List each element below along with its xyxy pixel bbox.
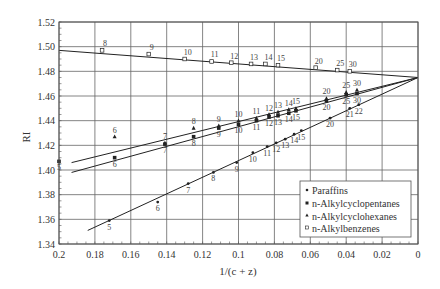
data-point: [147, 52, 151, 56]
point-label: 12: [272, 145, 280, 154]
data-point: [335, 68, 339, 72]
point-label: 14: [264, 53, 272, 62]
data-point: [210, 60, 214, 64]
point-label: 12: [230, 52, 238, 61]
plot-svg: 0.20.180.160.140.120.10.080.060.040.0201…: [0, 0, 440, 289]
data-point: [264, 62, 268, 66]
point-label: 15: [277, 54, 285, 63]
data-point: [355, 88, 359, 92]
point-label: 8: [103, 39, 107, 48]
legend-item-cyclohexanes: n-Alkylcyclohexanes: [305, 211, 397, 222]
y-tick-label: 1.44: [38, 115, 56, 126]
open-square-marker-icon: [306, 226, 309, 229]
x-tick-label: 0.1: [232, 249, 245, 260]
x-tick-label: 0: [416, 249, 421, 260]
x-tick-label: 0.12: [194, 249, 212, 260]
data-point: [314, 66, 318, 70]
filled-square-marker-icon: [306, 202, 309, 205]
point-label: 15: [292, 113, 300, 122]
data-point: [249, 62, 253, 66]
data-point: [329, 117, 332, 120]
data-point: [156, 201, 159, 204]
y-axis-label: RI: [20, 131, 32, 142]
point-label: 9: [217, 130, 221, 139]
point-label: 5: [107, 223, 111, 232]
legend-label: n-Alkylcyclopentanes: [312, 198, 400, 209]
data-point: [348, 70, 352, 74]
y-tick-label: 1.34: [38, 239, 56, 250]
fit-line: [72, 78, 418, 163]
y-tick-label: 1.50: [38, 41, 56, 52]
dot-marker-icon: [306, 189, 309, 192]
data-point: [276, 63, 280, 67]
point-label: 11: [211, 50, 219, 59]
point-label: 20: [322, 103, 330, 112]
x-tick-label: 0.04: [337, 249, 355, 260]
x-tick-label: 0.06: [302, 249, 320, 260]
point-label: 8: [192, 117, 196, 126]
x-tick-label: 0.14: [158, 249, 176, 260]
y-tick-label: 1.46: [38, 91, 56, 102]
legend-label: n-Alkylcyclohexanes: [312, 211, 397, 222]
point-label: 30: [349, 60, 357, 69]
point-label: 6: [113, 126, 117, 135]
data-point: [212, 171, 215, 174]
point-label: 30: [353, 96, 361, 105]
point-label: 7: [163, 132, 167, 141]
point-label: 20: [315, 57, 323, 66]
point-label: 25: [342, 81, 350, 90]
y-tick-label: 1.42: [38, 140, 56, 151]
point-label: 25: [342, 97, 350, 106]
legend-item-cyclopentanes: n-Alkylcyclopentanes: [306, 198, 400, 209]
point-label: 10: [184, 48, 192, 57]
data-point: [300, 129, 303, 132]
point-label: 10: [235, 126, 243, 135]
point-label: 6: [113, 160, 117, 169]
data-point: [348, 107, 351, 110]
point-label: 6: [156, 204, 160, 213]
y-tick-label: 1.52: [38, 17, 56, 28]
data-point: [100, 49, 104, 53]
y-tick-label: 1.36: [38, 214, 56, 225]
data-point: [230, 61, 234, 65]
point-label: 22: [355, 107, 363, 116]
point-label: 13: [274, 118, 282, 127]
point-label: 11: [253, 107, 261, 116]
point-label: 15: [297, 133, 305, 142]
point-label: 9: [217, 115, 221, 124]
data-point: [275, 141, 278, 144]
data-point: [266, 145, 269, 148]
data-point: [284, 138, 287, 141]
data-point: [192, 126, 196, 130]
legend-label: Paraffins: [312, 185, 348, 196]
data-point: [187, 182, 190, 185]
x-tick-label: 0.18: [86, 249, 104, 260]
point-label: 8: [211, 174, 215, 183]
point-label: 9: [235, 165, 239, 174]
x-axis-label: 1/(c + z): [219, 265, 257, 278]
point-label: 7: [186, 186, 190, 195]
point-label: 9: [150, 43, 154, 52]
point-label: 30: [353, 79, 361, 88]
data-point: [108, 219, 111, 222]
refractive-index-chart: 0.20.180.160.140.120.10.080.060.040.0201…: [0, 0, 440, 289]
point-label: 13: [281, 141, 289, 150]
point-label: 7: [163, 146, 167, 155]
point-label: 13: [250, 53, 258, 62]
data-point: [235, 161, 238, 164]
legend-label: n-Alkylbenzenes: [312, 223, 380, 234]
point-label: 10: [235, 110, 243, 119]
x-tick-label: 0.16: [122, 249, 140, 260]
data-point: [113, 135, 117, 139]
x-tick-label: 0.02: [373, 249, 391, 260]
data-point: [344, 90, 348, 94]
legend: Paraffins n-Alkylcyclopentanes n-Alkylcy…: [300, 181, 411, 237]
x-tick-label: 0.08: [266, 249, 284, 260]
legend-item-benzenes: n-Alkylbenzenes: [306, 223, 380, 234]
point-label: 20: [322, 87, 330, 96]
x-tick-label: 0.2: [53, 249, 66, 260]
point-label: 11: [253, 123, 261, 132]
data-point: [293, 133, 296, 136]
point-label: 8: [192, 139, 196, 148]
y-tick-label: 1.38: [38, 189, 56, 200]
